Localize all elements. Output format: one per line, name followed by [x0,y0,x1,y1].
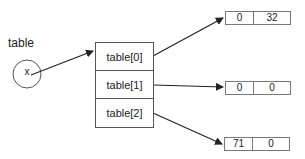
variable-value-symbol: x [21,66,33,77]
variable-label: table [8,36,34,50]
table-cell-2: table[2] [96,99,153,127]
sub-array-0: 0 32 [225,11,291,25]
table-cell-0: table[0] [96,43,153,71]
pointer-arrow-row0 [153,18,223,56]
sub-array-1-cell-1: 0 [254,82,290,94]
table-array: table[0] table[1] table[2] [95,42,154,128]
sub-array-0-cell-1: 32 [254,12,290,24]
pointer-arrow-row1 [153,85,223,87]
pointer-arrow-row2 [153,113,222,144]
sub-array-1: 0 0 [225,81,291,95]
pointer-arrow-table [31,51,93,75]
sub-array-1-cell-0: 0 [226,82,254,94]
sub-array-2-cell-1: 0 [253,138,289,150]
sub-array-2-cell-0: 71 [225,138,253,150]
sub-array-2: 71 0 [224,137,290,151]
table-cell-1: table[1] [96,71,153,99]
sub-array-0-cell-0: 0 [226,12,254,24]
